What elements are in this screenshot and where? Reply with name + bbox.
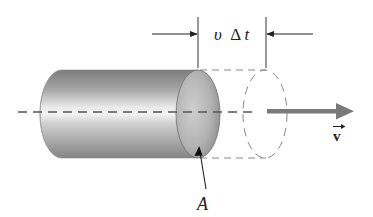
cylinder-end-cap [176, 70, 220, 158]
velocity-label-text: v [333, 128, 341, 144]
cylinder-body [40, 70, 198, 158]
length-label-delta: Δ [230, 25, 241, 44]
velocity-arrow [267, 103, 354, 120]
length-label-v: υ [214, 25, 222, 44]
area-label: A [196, 194, 209, 214]
length-label-t: t [244, 25, 250, 44]
velocity-label: v [333, 124, 346, 144]
cylinder-current-diagram: v υ Δ t A [0, 0, 373, 217]
dashed-ellipse [243, 70, 287, 158]
length-label: υ Δ t [214, 25, 250, 44]
